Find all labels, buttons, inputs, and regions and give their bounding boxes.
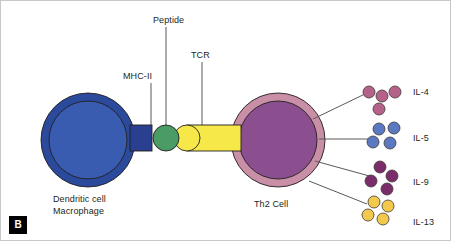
cytokine-dots-layer: [362, 86, 401, 225]
il-9-dot: [381, 183, 393, 195]
il-5-dot: [373, 123, 385, 135]
immune-synapse-layer: [130, 125, 241, 151]
peptide-label: Peptide: [153, 15, 184, 26]
apc-label-line2: Macrophage: [53, 206, 104, 217]
il-13-dot: [368, 196, 380, 208]
il-5-dot: [384, 137, 396, 149]
mhc-ii-molecule: [130, 125, 152, 151]
il-4-dot: [363, 86, 375, 98]
il-9-label: IL-9: [413, 177, 429, 188]
panel-tag-b: B: [9, 216, 27, 234]
il-4-dot: [373, 103, 385, 115]
diagram-canvas: [1, 1, 451, 241]
mhc-ii-label: MHC-II: [123, 71, 152, 82]
il-13-dot: [362, 209, 374, 221]
il-4-label: IL-4: [413, 87, 429, 98]
il-5-label: IL-5: [413, 133, 429, 144]
il-9-dot: [374, 161, 386, 173]
label-leader-lines: [151, 27, 202, 125]
tcr-label: TCR: [191, 50, 210, 61]
il-13-leader: [309, 181, 367, 204]
peptide-molecule: [153, 125, 179, 151]
th2-cell-label: Th2 Cell: [254, 199, 288, 210]
il-5-dot: [388, 122, 400, 134]
il-9-dot: [365, 175, 377, 187]
apc-label-line1: Dendritic cell: [53, 194, 106, 205]
il-4-leader: [313, 93, 367, 119]
il-9-leader: [315, 161, 373, 177]
il-4-dot: [376, 90, 388, 102]
il-9-dot: [386, 170, 398, 182]
th2-cell-nucleus: [239, 101, 317, 179]
il-13-dot: [377, 213, 389, 225]
il-13-dot: [382, 200, 394, 212]
il-13-label: IL-13: [413, 217, 434, 228]
dendritic-cell-macrophage-nucleus: [49, 101, 127, 179]
figure-panel-b: Peptide TCR MHC-II Dendritic cell Macrop…: [0, 0, 451, 241]
il-5-dot: [367, 136, 379, 148]
il-4-dot: [389, 86, 401, 98]
